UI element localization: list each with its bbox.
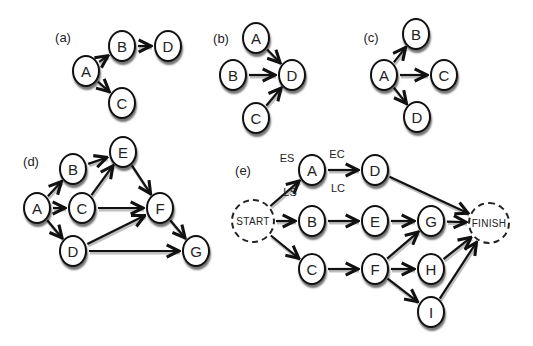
node-c-d: D — [403, 101, 431, 133]
panel-label-b: (b) — [213, 31, 229, 46]
node-b-c: C — [242, 102, 270, 134]
edge-e-G-FINISH — [447, 222, 466, 223]
node-d-a: A — [23, 192, 51, 224]
node-e-a: A — [298, 154, 326, 186]
panel-label-d: (d) — [23, 154, 39, 169]
panel-label-c: (c) — [363, 30, 378, 45]
node-e-b: B — [298, 205, 326, 237]
edge-b-C-D — [266, 88, 281, 106]
node-c-c: C — [430, 59, 458, 91]
node-a-a: A — [72, 55, 100, 87]
node-b-a: A — [242, 22, 270, 54]
edges-layer — [47, 46, 477, 304]
node-e-e: E — [361, 205, 389, 237]
node-e-g: G — [417, 205, 445, 237]
node-e-finish: FINISH — [468, 202, 510, 244]
edge-e-F-I — [388, 279, 418, 302]
annotation-ec: EC — [329, 148, 344, 160]
panel-label-e: (e) — [235, 163, 251, 178]
edge-c-A-D — [394, 88, 407, 104]
node-e-c: C — [298, 253, 326, 285]
node-e-start: START — [231, 199, 275, 243]
edge-d-C-E — [91, 166, 113, 195]
edge-d-A-D — [47, 220, 62, 238]
annotation-ls: LS — [283, 186, 296, 198]
node-d-c: C — [68, 192, 96, 224]
edge-e-F-G — [387, 232, 418, 259]
node-b-b: B — [219, 59, 247, 91]
node-a-c: C — [108, 87, 136, 119]
panel-label-a: (a) — [55, 30, 71, 45]
annotation-es: ES — [280, 152, 295, 164]
edge-d-F-G — [170, 220, 185, 238]
node-c-a: A — [370, 59, 398, 91]
edge-d-D-F — [87, 216, 144, 244]
node-e-h: H — [417, 253, 445, 285]
edge-b-A-D — [267, 49, 280, 62]
edge-e-START-C — [271, 236, 299, 259]
node-e-f: F — [361, 253, 389, 285]
node-d-g: G — [182, 235, 210, 267]
node-e-i: I — [417, 296, 445, 328]
node-e-d: D — [361, 154, 389, 186]
node-b-d: D — [278, 59, 306, 91]
edge-a-A-C — [98, 82, 109, 92]
node-c-b: B — [402, 18, 430, 50]
annotation-lc: LC — [331, 182, 345, 194]
node-a-d: D — [154, 30, 182, 62]
node-d-d: D — [59, 235, 87, 267]
node-d-e: E — [109, 136, 137, 168]
node-d-b: B — [59, 153, 87, 185]
node-d-f: F — [146, 192, 174, 224]
edge-d-E-F — [132, 165, 151, 193]
node-a-b: B — [108, 30, 136, 62]
